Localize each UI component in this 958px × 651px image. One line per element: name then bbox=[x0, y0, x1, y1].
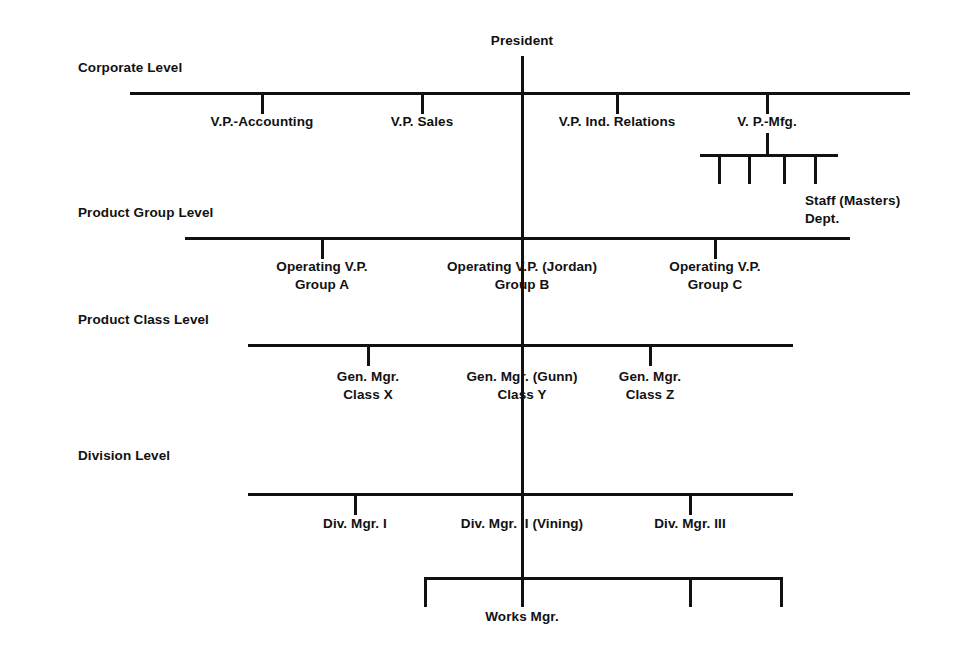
node-gen-mgr-class-x-line2: Class X bbox=[337, 386, 399, 404]
connector-vp-sales bbox=[421, 92, 424, 114]
node-operating-vp-group-a: Operating V.P. Group A bbox=[276, 258, 367, 294]
connector-mfg-to-staff-bar bbox=[766, 133, 769, 155]
node-gen-mgr-class-y-line2: Class Y bbox=[466, 386, 577, 404]
connector-gen-mgr-class-y bbox=[521, 344, 524, 494]
bar-works-level bbox=[424, 577, 783, 580]
node-works-mgr: Works Mgr. bbox=[485, 608, 559, 626]
level-label-division: Division Level bbox=[78, 448, 170, 463]
connector-div-mgr-3 bbox=[689, 493, 692, 515]
node-staff-masters-dept-line1: Staff (Masters) bbox=[805, 193, 900, 208]
connector-vp-ind-relations bbox=[616, 92, 619, 114]
connector-vp-accounting bbox=[261, 92, 264, 114]
node-div-mgr-3: Div. Mgr. III bbox=[654, 515, 726, 533]
bar-corporate-level bbox=[130, 92, 910, 95]
org-chart: Corporate Level Product Group Level Prod… bbox=[0, 0, 958, 651]
connector-operating-vp-group-a bbox=[321, 237, 324, 259]
node-operating-vp-group-c-line2: Group C bbox=[669, 276, 760, 294]
node-operating-vp-group-b-line1: Operating V.P. (Jordan) bbox=[447, 259, 597, 274]
node-president: President bbox=[491, 32, 553, 50]
connector-operating-vp-group-c bbox=[714, 237, 717, 259]
node-div-mgr-1: Div. Mgr. I bbox=[323, 515, 387, 533]
connector-works-mgr bbox=[521, 577, 524, 607]
connector-staff-dept-1 bbox=[718, 154, 721, 184]
connector-div-mgr-2 bbox=[521, 493, 524, 578]
node-operating-vp-group-a-line2: Group A bbox=[276, 276, 367, 294]
connector-staff-dept-4 bbox=[814, 154, 817, 184]
level-label-corporate: Corporate Level bbox=[78, 60, 182, 75]
node-gen-mgr-class-x: Gen. Mgr. Class X bbox=[337, 368, 399, 404]
connector-staff-dept-2 bbox=[748, 154, 751, 184]
node-gen-mgr-class-y: Gen. Mgr. (Gunn) Class Y bbox=[466, 368, 577, 404]
node-gen-mgr-class-z-line1: Gen. Mgr. bbox=[619, 369, 681, 384]
bar-product-group-level bbox=[185, 237, 850, 240]
node-gen-mgr-class-z: Gen. Mgr. Class Z bbox=[619, 368, 681, 404]
connector-gen-mgr-class-x bbox=[367, 344, 370, 366]
node-staff-masters-dept-line2: Dept. bbox=[805, 210, 900, 228]
node-operating-vp-group-a-line1: Operating V.P. bbox=[276, 259, 367, 274]
connector-staff-dept-3 bbox=[783, 154, 786, 184]
connector-president-stem bbox=[521, 56, 524, 238]
node-operating-vp-group-b: Operating V.P. (Jordan) Group B bbox=[447, 258, 597, 294]
node-gen-mgr-class-z-line2: Class Z bbox=[619, 386, 681, 404]
connector-works-left bbox=[424, 577, 427, 607]
connector-gen-mgr-class-z bbox=[649, 344, 652, 366]
connector-works-right bbox=[780, 577, 783, 607]
node-vp-sales: V.P. Sales bbox=[391, 113, 454, 131]
node-vp-accounting: V.P.-Accounting bbox=[211, 113, 314, 131]
level-label-product-class: Product Class Level bbox=[78, 312, 209, 327]
node-gen-mgr-class-x-line1: Gen. Mgr. bbox=[337, 369, 399, 384]
connector-vp-mfg bbox=[766, 92, 769, 114]
level-label-product-group: Product Group Level bbox=[78, 205, 213, 220]
node-vp-ind-relations: V.P. Ind. Relations bbox=[559, 113, 676, 131]
node-staff-masters-dept: Staff (Masters) Dept. bbox=[805, 192, 900, 228]
connector-div-mgr-1 bbox=[354, 493, 357, 515]
connector-works-middle-right bbox=[689, 577, 692, 607]
node-vp-mfg: V. P.-Mfg. bbox=[737, 113, 797, 131]
node-div-mgr-2: Div. Mgr. II (Vining) bbox=[461, 515, 583, 533]
node-operating-vp-group-b-line2: Group B bbox=[447, 276, 597, 294]
node-operating-vp-group-c: Operating V.P. Group C bbox=[669, 258, 760, 294]
node-operating-vp-group-c-line1: Operating V.P. bbox=[669, 259, 760, 274]
node-gen-mgr-class-y-line1: Gen. Mgr. (Gunn) bbox=[466, 369, 577, 384]
